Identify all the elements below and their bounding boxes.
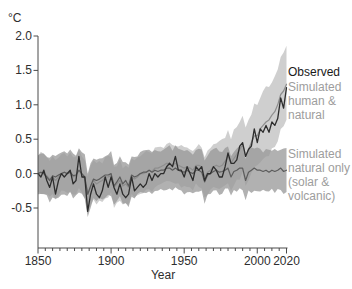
chart-plot-area [0, 0, 352, 289]
y-tick-label: 1.5 [6, 63, 32, 77]
legend-observed: Observed [288, 65, 340, 79]
y-tick-label: 1.0 [6, 98, 32, 112]
x-axis-title: Year [145, 268, 181, 282]
y-tick-label: 2.0 [6, 29, 32, 43]
x-tick-label: 1900 [93, 254, 129, 268]
y-axis-unit-label: °C [8, 11, 21, 25]
legend-simulated-human-natural: Simulated human & natural [288, 80, 341, 122]
y-tick-label: -0.5 [6, 201, 32, 215]
x-tick-label: 2020 [269, 254, 305, 268]
legend-simulated-natural-only: Simulated natural only (solar & volcanic… [288, 147, 350, 203]
climate-attribution-chart: °C 2.01.51.00.50.0-0.5185019001950200020… [0, 0, 352, 289]
y-tick-label: 0.0 [6, 167, 32, 181]
y-tick-label: 0.5 [6, 132, 32, 146]
x-tick-label: 1950 [166, 254, 202, 268]
x-tick-label: 1850 [20, 254, 56, 268]
